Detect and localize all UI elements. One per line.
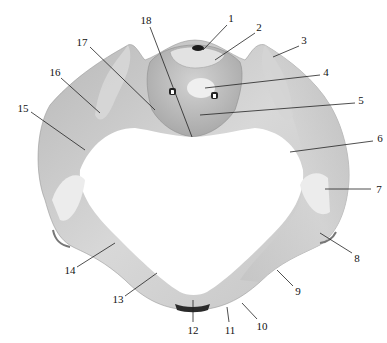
label-14: 14 [65, 265, 76, 276]
label-8: 8 [354, 253, 360, 264]
pelvis-figure: 123456789101112131415161718 [0, 0, 387, 343]
label-16: 16 [50, 67, 61, 78]
label-1: 1 [228, 13, 234, 24]
label-4: 4 [323, 67, 329, 78]
label-2: 2 [256, 22, 262, 33]
label-10: 10 [257, 321, 268, 332]
leader-line-11 [227, 307, 229, 322]
leader-line-9 [277, 270, 293, 286]
label-9: 9 [295, 286, 301, 297]
label-18: 18 [141, 15, 152, 26]
label-13: 13 [113, 294, 124, 305]
pelvis-illustration [0, 0, 387, 343]
label-15: 15 [18, 103, 29, 114]
label-17: 17 [77, 37, 88, 48]
label-5: 5 [358, 95, 364, 106]
label-3: 3 [301, 35, 307, 46]
label-6: 6 [377, 133, 383, 144]
label-11: 11 [225, 325, 236, 336]
label-7: 7 [376, 184, 382, 195]
label-12: 12 [188, 325, 199, 336]
leader-line-10 [242, 303, 257, 319]
leader-line-3 [273, 46, 299, 57]
leader-line-8 [320, 233, 352, 253]
